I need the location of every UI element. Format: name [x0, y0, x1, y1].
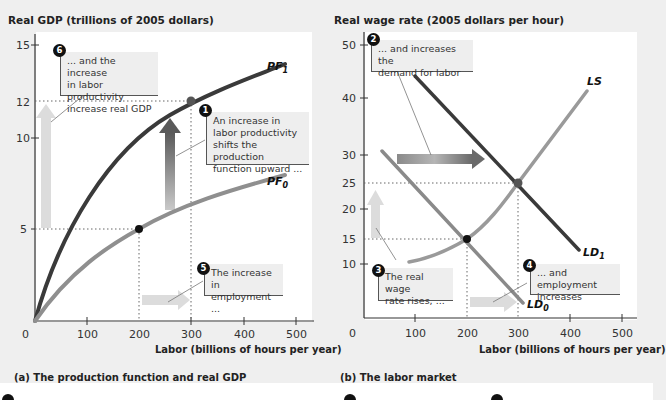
panel-production-function: Real GDP (trillions of 2005 dollars) 15 … — [0, 0, 327, 383]
svg-text:40: 40 — [342, 92, 356, 105]
svg-text:30: 30 — [342, 149, 356, 162]
svg-text:15: 15 — [342, 233, 356, 246]
svg-text:20: 20 — [342, 203, 356, 216]
badge-1: 1 — [199, 104, 212, 117]
arrow-wage-up — [367, 190, 384, 238]
badge-3: 3 — [372, 264, 385, 277]
leader-lines-a — [51, 94, 205, 302]
panel-labor-market: Real wage rate (2005 dollars per hour) 5… — [327, 0, 653, 383]
svg-text:500: 500 — [286, 328, 307, 341]
callout-6: ... and the increase in labor productivi… — [60, 52, 158, 96]
svg-text:200: 200 — [457, 327, 478, 340]
curve-ls — [409, 91, 587, 262]
badge-cropped-right-a — [344, 394, 356, 400]
point-l200-gdp5 — [135, 225, 143, 233]
badge-6: 6 — [53, 44, 66, 57]
caption-a: (a) The production function and real GDP — [14, 372, 246, 383]
callout-5: The increase in employment ... — [204, 264, 283, 296]
badge-cropped-left — [2, 394, 14, 400]
svg-text:10: 10 — [16, 132, 30, 145]
badge-cropped-right-b — [491, 394, 503, 400]
point-l300-w25 — [514, 179, 523, 188]
svg-text:25: 25 — [342, 177, 356, 190]
chart-a-svg: 15 12 10 5 0 100 200 300 400 500 — [0, 0, 327, 383]
point-l300-gdp12 — [187, 97, 196, 106]
svg-text:0: 0 — [349, 327, 356, 340]
svg-text:300: 300 — [181, 328, 202, 341]
svg-text:500: 500 — [612, 327, 633, 340]
svg-text:400: 400 — [560, 327, 581, 340]
svg-text:12: 12 — [16, 96, 30, 109]
svg-text:300: 300 — [508, 327, 529, 340]
svg-text:100: 100 — [77, 328, 98, 341]
label-ld1: LD1 — [583, 246, 605, 261]
label-ls: LS — [587, 75, 602, 88]
callout-1: An increase in labor productivity shifts… — [206, 112, 309, 165]
x-axis-title-b: Labor (billions of hours per year) — [479, 344, 666, 355]
badge-5: 5 — [197, 262, 210, 275]
badge-4: 4 — [523, 259, 536, 272]
arrow-demand-shift-right — [397, 149, 485, 169]
label-pf0: PF0 — [267, 175, 289, 190]
arrow-real-gdp-up — [36, 104, 56, 228]
badge-2: 2 — [367, 33, 380, 46]
svg-text:10: 10 — [342, 258, 356, 271]
x-axis-title-a: Labor (billions of hours per year) — [155, 344, 342, 355]
svg-text:400: 400 — [234, 328, 255, 341]
svg-text:100: 100 — [405, 327, 426, 340]
caption-b: (b) The labor market — [340, 372, 457, 383]
svg-text:0: 0 — [22, 328, 29, 341]
callout-2: ... and increases the demand for labor — [371, 40, 473, 72]
svg-text:5: 5 — [20, 223, 27, 236]
bottom-text-strip-cropped — [0, 383, 653, 400]
point-l200-w15 — [463, 235, 471, 243]
svg-text:50: 50 — [342, 39, 356, 52]
svg-text:15: 15 — [16, 39, 30, 52]
arrow-pf-shift-up — [159, 118, 181, 210]
svg-text:200: 200 — [129, 328, 150, 341]
callout-4: ... and employment increases — [530, 264, 620, 295]
callout-3: The real wage rate rises, ... — [378, 268, 453, 301]
